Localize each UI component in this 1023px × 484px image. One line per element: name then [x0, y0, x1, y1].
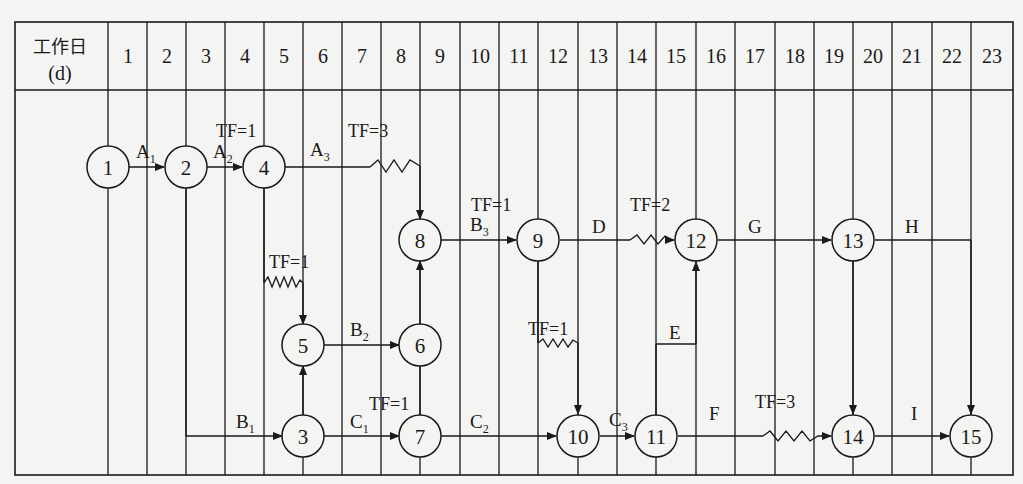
edge-A3-float-wave — [370, 160, 420, 172]
node-13: 13 — [832, 219, 874, 261]
day-numbers: 1 2 3 4 5 6 7 8 9 10 11 12 13 14 15 16 1… — [123, 45, 1002, 67]
day-12: 12 — [548, 45, 568, 67]
edge-D-float-wave — [630, 235, 672, 244]
svg-text:4: 4 — [259, 156, 270, 180]
node-8: 8 — [399, 219, 441, 261]
svg-text:11: 11 — [646, 425, 666, 449]
node-1: 1 — [87, 146, 129, 188]
header-unit: (d) — [48, 62, 71, 85]
node-10: 10 — [557, 415, 599, 457]
svg-text:5: 5 — [298, 334, 309, 358]
label-H: H — [905, 216, 919, 237]
svg-text:6: 6 — [415, 334, 426, 358]
label-E: E — [669, 322, 681, 343]
label-A2: A2 — [213, 141, 233, 166]
tf-B3: TF=1 — [471, 195, 511, 215]
day-21: 21 — [902, 45, 922, 67]
node-12: 12 — [675, 219, 717, 261]
day-13: 13 — [588, 45, 608, 67]
label-F: F — [709, 403, 720, 424]
day-3: 3 — [201, 45, 211, 67]
node-3: 3 — [282, 415, 324, 457]
day-16: 16 — [706, 45, 726, 67]
day-22: 22 — [942, 45, 962, 67]
tf-A2: TF=1 — [216, 121, 256, 141]
tf-C1: TF=1 — [369, 394, 409, 414]
day-5: 5 — [279, 45, 289, 67]
day-7: 7 — [357, 45, 367, 67]
day-20: 20 — [863, 45, 883, 67]
svg-text:3: 3 — [298, 425, 309, 449]
tf-D: TF=2 — [630, 195, 670, 215]
label-I: I — [911, 403, 917, 424]
day-14: 14 — [627, 45, 647, 67]
tf-dummy-4-5: TF=1 — [269, 252, 309, 272]
svg-text:10: 10 — [568, 425, 589, 449]
day-4: 4 — [240, 45, 250, 67]
svg-text:7: 7 — [415, 425, 426, 449]
label-B3: B3 — [470, 214, 489, 239]
svg-text:9: 9 — [533, 229, 544, 253]
node-9: 9 — [517, 219, 559, 261]
day-18: 18 — [785, 45, 805, 67]
dummy-9-10-float-wave — [538, 339, 578, 347]
edge-F-float-wave — [763, 431, 822, 441]
day-17: 17 — [745, 45, 765, 67]
node-6: 6 — [399, 324, 441, 366]
label-C3: C3 — [609, 409, 628, 434]
edges — [129, 160, 971, 441]
label-C1: C1 — [350, 411, 369, 436]
svg-text:12: 12 — [686, 229, 707, 253]
label-G: G — [748, 216, 762, 237]
label-B1: B1 — [236, 411, 255, 436]
svg-text:1: 1 — [103, 156, 114, 180]
node-15: 15 — [950, 415, 992, 457]
tf-F: TF=3 — [755, 392, 795, 412]
label-C2: C2 — [470, 411, 489, 436]
tf-A3: TF=3 — [348, 121, 388, 141]
day-15: 15 — [666, 45, 686, 67]
node-4: 4 — [243, 146, 285, 188]
node-2: 2 — [165, 146, 207, 188]
svg-text:13: 13 — [843, 229, 864, 253]
node-7: 7 — [399, 415, 441, 457]
day-10: 10 — [470, 45, 490, 67]
label-A1: A1 — [136, 141, 156, 166]
tf-dummy-9-10: TF=1 — [528, 319, 568, 339]
svg-text:2: 2 — [181, 156, 192, 180]
day-19: 19 — [824, 45, 844, 67]
node-14: 14 — [832, 415, 874, 457]
label-D: D — [592, 216, 606, 237]
day-8: 8 — [396, 45, 406, 67]
nodes: 1 2 4 8 9 12 13 5 6 3 7 10 11 14 15 — [87, 146, 992, 457]
day-23: 23 — [982, 45, 1002, 67]
header-title: 工作日 — [33, 36, 87, 57]
day-9: 9 — [435, 45, 445, 67]
day-2: 2 — [162, 45, 172, 67]
label-B2: B2 — [350, 319, 369, 344]
svg-text:8: 8 — [415, 229, 426, 253]
svg-text:15: 15 — [961, 425, 982, 449]
day-6: 6 — [318, 45, 328, 67]
day-1: 1 — [123, 45, 133, 67]
label-A3: A3 — [310, 139, 330, 164]
node-5: 5 — [282, 324, 324, 366]
day-11: 11 — [509, 45, 528, 67]
time-scaled-network-diagram: 工作日 (d) 1 2 3 4 5 6 7 8 9 10 11 12 13 14… — [0, 0, 1023, 484]
svg-text:14: 14 — [843, 425, 865, 449]
dummy-4-5-float-wave — [264, 277, 303, 287]
node-11: 11 — [635, 415, 677, 457]
